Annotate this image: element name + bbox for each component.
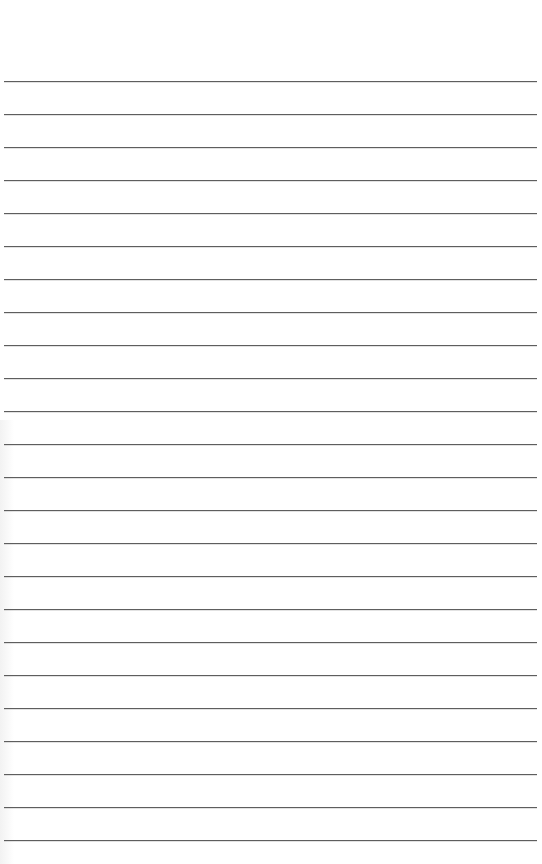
ruled-line bbox=[4, 807, 537, 808]
ruled-line bbox=[4, 279, 537, 280]
ruled-line bbox=[4, 345, 537, 346]
ruled-line bbox=[4, 741, 537, 742]
ruled-line bbox=[4, 444, 537, 445]
ruled-line bbox=[4, 510, 537, 511]
ruled-line bbox=[4, 840, 537, 841]
ruled-line bbox=[4, 642, 537, 643]
ruled-line bbox=[4, 675, 537, 676]
ruled-line bbox=[4, 708, 537, 709]
ruled-line bbox=[4, 543, 537, 544]
ruled-line bbox=[4, 312, 537, 313]
ruled-line bbox=[4, 609, 537, 610]
ruled-line bbox=[4, 147, 537, 148]
ruled-line bbox=[4, 774, 537, 775]
paper-top-area bbox=[0, 0, 542, 420]
ruled-line bbox=[4, 180, 537, 181]
ruled-line bbox=[4, 477, 537, 478]
lined-paper-sheet bbox=[0, 0, 542, 864]
ruled-line bbox=[4, 411, 537, 412]
ruled-line bbox=[4, 81, 537, 82]
ruled-line bbox=[4, 378, 537, 379]
ruled-line bbox=[4, 114, 537, 115]
ruled-line bbox=[4, 213, 537, 214]
ruled-line bbox=[4, 576, 537, 577]
ruled-line bbox=[4, 246, 537, 247]
